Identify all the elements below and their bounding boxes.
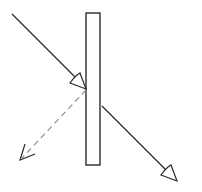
incident-arrowhead-icon [70,73,86,89]
optics-diagram [0,0,202,192]
glass-slab [86,13,100,165]
transmitted-ray [102,106,177,181]
incident-ray [12,14,86,89]
diagram-svg [0,0,202,192]
reflected-ray [20,90,86,160]
